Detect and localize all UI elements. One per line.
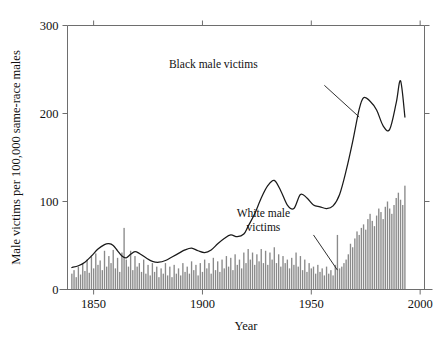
y-tick-label: 300 <box>40 19 59 33</box>
bar <box>274 247 275 289</box>
bar <box>167 275 168 289</box>
bar <box>230 258 231 290</box>
bar <box>400 200 401 290</box>
bar <box>256 254 257 289</box>
bar <box>213 258 214 290</box>
bar <box>348 254 349 289</box>
bar <box>132 270 133 289</box>
bar <box>311 268 312 289</box>
bar <box>285 263 286 289</box>
bar <box>361 228 362 290</box>
bar <box>204 260 205 290</box>
bar <box>110 263 111 289</box>
bar <box>237 265 238 290</box>
bar <box>202 272 203 290</box>
x-axis-title: Year <box>234 319 258 333</box>
bar <box>191 261 192 289</box>
bar <box>250 260 251 290</box>
bar <box>234 254 235 289</box>
bar <box>126 260 127 290</box>
bar <box>382 219 383 289</box>
bar <box>387 202 388 290</box>
bar <box>123 228 124 290</box>
bar <box>363 224 364 289</box>
bar <box>385 207 386 290</box>
bar <box>200 263 201 289</box>
y-tick-label: 0 <box>52 283 58 297</box>
bar <box>82 263 83 289</box>
bar <box>261 249 262 289</box>
bar <box>130 251 131 290</box>
bar <box>187 267 188 290</box>
bar <box>189 274 190 290</box>
bar <box>241 268 242 289</box>
bar <box>374 226 375 289</box>
bar <box>322 268 323 289</box>
bar <box>232 270 233 289</box>
bar <box>173 265 174 290</box>
bar <box>208 263 209 289</box>
bar <box>378 209 379 290</box>
y-tick-label: 200 <box>40 107 59 121</box>
bar <box>287 260 288 290</box>
bar <box>224 268 225 289</box>
bar <box>217 261 218 289</box>
bar <box>197 275 198 289</box>
annotation-line: Black male victims <box>169 58 258 70</box>
bar <box>248 249 249 289</box>
bar <box>263 263 264 289</box>
bar <box>271 260 272 290</box>
bar <box>343 263 344 289</box>
bar <box>226 256 227 289</box>
bar <box>215 270 216 289</box>
bar <box>117 258 118 290</box>
x-tick-label: 1900 <box>190 297 215 311</box>
bar <box>84 271 85 289</box>
bar <box>73 270 74 289</box>
bar <box>295 253 296 290</box>
bar <box>93 268 94 289</box>
x-tick-label: 2000 <box>408 297 433 311</box>
bar <box>113 250 114 290</box>
bar <box>359 235 360 290</box>
bar <box>332 275 333 289</box>
bar <box>128 267 129 290</box>
bar <box>219 272 220 290</box>
bar <box>97 265 98 290</box>
bar <box>380 212 381 289</box>
bar <box>95 253 96 289</box>
bar <box>396 198 397 290</box>
bar <box>352 247 353 289</box>
chart-figure: 01002003001850190019502000YearMale victi… <box>0 0 442 340</box>
bar <box>119 272 120 290</box>
bar <box>182 263 183 289</box>
x-tick-label: 1950 <box>299 297 324 311</box>
bar <box>143 260 144 290</box>
bar <box>315 274 316 290</box>
white-male-victims-bars <box>71 186 405 290</box>
bar <box>195 265 196 290</box>
bar <box>121 253 122 290</box>
bar <box>206 268 207 289</box>
bar <box>389 209 390 290</box>
bar <box>193 270 194 289</box>
bar <box>326 267 327 290</box>
bar <box>136 267 137 290</box>
bar <box>293 265 294 290</box>
bar <box>337 235 338 290</box>
bar <box>302 270 303 289</box>
bar <box>99 260 100 289</box>
bar <box>80 275 81 290</box>
bar <box>243 253 244 290</box>
bar <box>276 263 277 289</box>
bar <box>282 256 283 289</box>
bar <box>108 256 109 289</box>
bar <box>369 214 370 290</box>
bar <box>402 205 403 289</box>
bar <box>228 267 229 290</box>
bar <box>328 274 329 290</box>
bar <box>89 273 90 290</box>
bar <box>176 274 177 290</box>
bar <box>252 253 253 290</box>
bar <box>163 274 164 290</box>
